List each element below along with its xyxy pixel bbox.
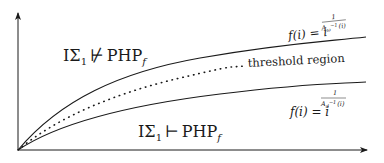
threshold-region-label: threshold region [247,51,345,70]
svg-text:1: 1 [333,89,337,97]
lower-region-label: IΣ1⊢PHPf [138,122,223,143]
upper-curve-formula: f(i) = i 1 Aω−1(i) [285,12,347,43]
growth-threshold-diagram: IΣ1⊬PHPf IΣ1⊢PHPf threshold region f(i) … [0,0,384,163]
upper-region-label: IΣ1⊬PHPf [63,46,148,67]
svg-text:1: 1 [331,13,336,21]
svg-text:Ad−1(i): Ad−1(i) [320,99,345,109]
svg-text:Aω−1(i): Aω−1(i) [320,21,347,34]
lower-curve-formula: f(i) = i 1 Ad−1(i) [289,89,346,119]
